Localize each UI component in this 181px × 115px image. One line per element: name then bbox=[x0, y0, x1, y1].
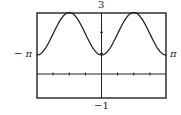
xmax-label: π bbox=[170, 49, 177, 59]
ymax-label: 3 bbox=[98, 0, 104, 10]
xmin-label: − π bbox=[14, 49, 32, 59]
ymin-label: −1 bbox=[94, 101, 109, 111]
